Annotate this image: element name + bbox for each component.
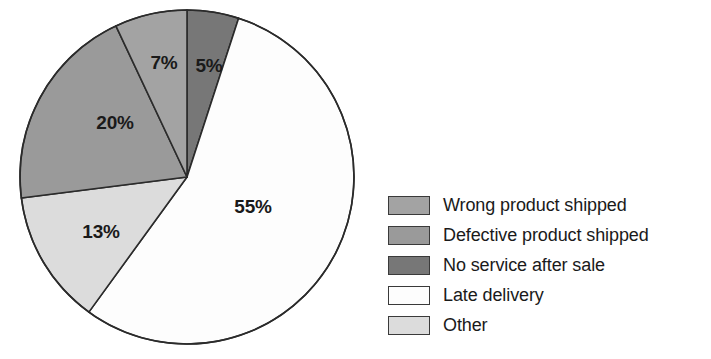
legend-swatch-icon	[388, 316, 430, 335]
pie-slice-value-label: 55%	[234, 196, 272, 217]
legend-swatch-icon	[388, 286, 430, 305]
pie-chart-svg: 5%55%13%20%7%	[0, 0, 380, 359]
legend-item-label: Late delivery	[443, 285, 544, 306]
legend-item-other[interactable]: Other	[388, 310, 708, 340]
legend-swatch-icon	[388, 196, 430, 215]
pie-slice-group	[20, 10, 354, 344]
pie-slice-value-label: 13%	[82, 221, 120, 242]
pie-chart-plot-area: 5%55%13%20%7%	[0, 0, 380, 359]
legend-swatch-icon	[388, 256, 430, 275]
legend-item-wrong-product-shipped[interactable]: Wrong product shipped	[388, 190, 708, 220]
legend-item-label: Wrong product shipped	[443, 195, 627, 216]
legend-item-label: Other	[443, 315, 488, 336]
legend-item-label: Defective product shipped	[443, 225, 649, 246]
pie-slice-value-label: 5%	[195, 55, 222, 76]
legend-item-label: No service after sale	[443, 255, 605, 276]
legend-item-no-service-after-sale[interactable]: No service after sale	[388, 250, 708, 280]
legend-item-defective-product-shipped[interactable]: Defective product shipped	[388, 220, 708, 250]
pie-slice-value-label: 7%	[150, 52, 177, 73]
legend-item-late-delivery[interactable]: Late delivery	[388, 280, 708, 310]
legend-swatch-icon	[388, 226, 430, 245]
pie-chart-figure: 5%55%13%20%7% Wrong product shipped Defe…	[0, 0, 711, 359]
legend: Wrong product shipped Defective product …	[388, 190, 708, 340]
pie-slice-value-label: 20%	[96, 112, 134, 133]
